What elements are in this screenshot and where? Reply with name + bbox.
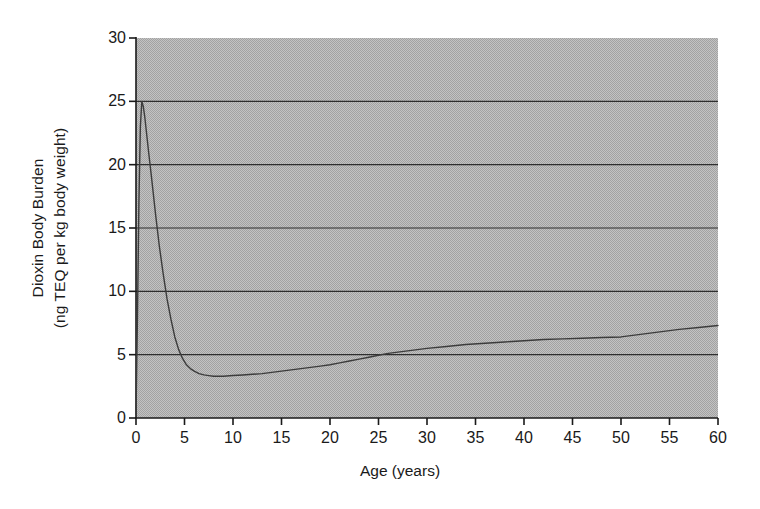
x-tick-label: 25 [359, 430, 399, 446]
dioxin-body-burden-chart: Dioxin Body Burden (ng TEQ per kg body w… [0, 0, 760, 509]
x-tick-label: 40 [504, 430, 544, 446]
x-tick-label: 35 [456, 430, 496, 446]
x-tick-label: 60 [698, 430, 738, 446]
x-tick-label: 0 [116, 430, 156, 446]
x-axis-title: Age (years) [0, 462, 760, 480]
x-tick-label: 5 [165, 430, 205, 446]
x-tick-label: 50 [601, 430, 641, 446]
x-tick-label: 15 [262, 430, 302, 446]
x-tick-label: 55 [650, 430, 690, 446]
x-tick-label: 20 [310, 430, 350, 446]
x-axis-tick-labels: 051015202530354045505560 [0, 0, 760, 509]
x-tick-label: 45 [553, 430, 593, 446]
x-tick-label: 10 [213, 430, 253, 446]
x-tick-label: 30 [407, 430, 447, 446]
